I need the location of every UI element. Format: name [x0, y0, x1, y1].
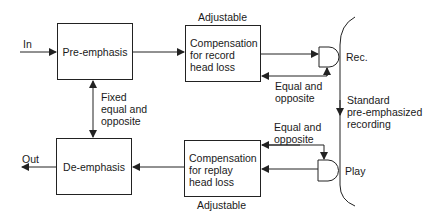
play-equal-label: Equal and opposite: [274, 121, 321, 145]
play-head-icon: [318, 160, 339, 181]
rec-feedback-arrow-left: [262, 68, 327, 76]
de-emphasis-label: De-emphasis: [63, 161, 125, 173]
record-comp-line3: head loss: [190, 61, 260, 73]
replay-comp-line2: for replay: [189, 164, 260, 176]
record-comp-block: Compensation for record head loss: [185, 25, 261, 82]
pre-emphasis-block: Pre-emphasis: [57, 23, 133, 80]
tape-label: Standard pre-emphasized recording: [347, 94, 422, 130]
de-emphasis-block: De-emphasis: [56, 138, 132, 195]
rec-head-icon: [319, 47, 339, 67]
fixed-line3: opposite: [101, 115, 147, 127]
adjustable-bottom-label: Adjustable: [197, 199, 246, 211]
rec-equal-line2: opposite: [275, 92, 322, 104]
tape-emphasis-diagram: Pre-emphasis Compensation for record hea…: [0, 0, 441, 221]
replay-comp-line3: head loss: [189, 176, 260, 188]
replay-comp-line1: Compensation: [189, 152, 260, 164]
replay-comp-block: Compensation for replay head loss: [184, 140, 261, 197]
fixed-line1: Fixed: [101, 91, 147, 103]
record-comp-line2: for record: [190, 49, 260, 61]
rec-head-label: Rec.: [346, 51, 368, 63]
rec-equal-label: Equal and opposite: [275, 80, 322, 104]
rec-equal-line1: Equal and: [275, 80, 322, 92]
tape-line2: pre-emphasized: [347, 106, 422, 118]
play-head-label: Play: [345, 165, 365, 177]
pre-emphasis-label: Pre-emphasis: [63, 46, 128, 58]
tape-line3: recording: [347, 118, 422, 130]
fixed-equal-label: Fixed equal and opposite: [101, 91, 147, 127]
play-equal-line1: Equal and: [274, 121, 321, 133]
play-equal-line2: opposite: [274, 133, 321, 145]
output-label: Out: [22, 153, 39, 165]
play-feedback-arrow-down: [262, 145, 324, 159]
fixed-line2: equal and: [101, 103, 147, 115]
input-label: In: [23, 38, 32, 50]
record-comp-line1: Compensation: [190, 37, 260, 49]
adjustable-top-label: Adjustable: [198, 11, 247, 23]
tape-line1: Standard: [347, 94, 422, 106]
